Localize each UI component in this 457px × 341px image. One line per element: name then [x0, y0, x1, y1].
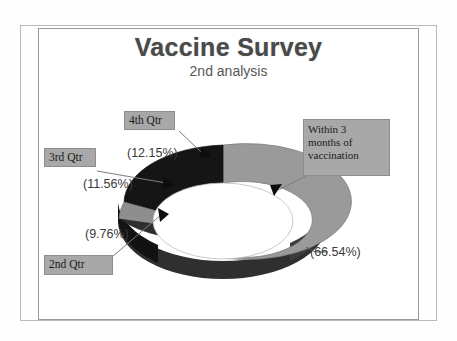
callout-box-qtr3[interactable]: 3rd Qtr: [44, 148, 96, 167]
data-label-qtr3: (11.56%): [83, 177, 133, 191]
callout-box-within3-months[interactable]: Within 3 months of vaccination: [303, 119, 390, 176]
callout-box-qtr2[interactable]: 2nd Qtr: [44, 255, 113, 275]
title-block: Vaccine Survey 2nd analysis: [38, 34, 419, 79]
page-subtitle: 2nd analysis: [38, 64, 419, 79]
data-label-qtr4: (12.15%): [127, 146, 178, 160]
data-label-within3: (66.54%): [310, 245, 361, 259]
callout-box-qtr4[interactable]: 4th Qtr: [124, 111, 175, 130]
page-title: Vaccine Survey: [38, 34, 419, 60]
data-label-qtr2: (9.76%): [85, 227, 129, 241]
donut-hole: [153, 183, 293, 259]
slide-canvas: Vaccine Survey 2nd analysis: [0, 0, 457, 341]
